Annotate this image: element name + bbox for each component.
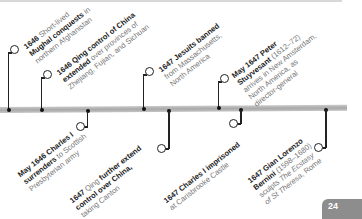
event-marker-6: [157, 144, 166, 153]
connector-7: [240, 110, 242, 124]
event-marker-3: [145, 67, 154, 76]
top-border: [0, 0, 342, 2]
event-marker-7: [229, 119, 238, 128]
connector-3: [143, 74, 145, 108]
connector-8: [325, 110, 327, 148]
timeline-dot-3: [142, 107, 146, 111]
connector-1: [8, 52, 10, 110]
page-number: 24: [328, 201, 338, 211]
event-label-bernini: 1647 Gian Lorenzo Bernini (1598–1680) sc…: [246, 134, 324, 206]
event-label-charles-imprisoned: 1647 Charles I imprisoned at Carisbrooke…: [162, 140, 247, 212]
event-marker-4: [220, 74, 229, 83]
connector-4: [218, 81, 220, 107]
timeline-dot-4: [217, 106, 221, 110]
event-label-charles-surrenders: May 1646 Charles I surrenders to Scottis…: [16, 124, 94, 193]
timeline-dot-1: [7, 108, 11, 112]
connector-6: [168, 111, 170, 149]
event-marker-2: [43, 70, 52, 79]
page-number-tab: 24: [322, 199, 362, 219]
timeline-bar: [0, 105, 347, 113]
connector-5: [87, 111, 89, 127]
connector-1h: [8, 52, 12, 54]
timeline-dot-2: [40, 108, 44, 112]
event-label-stuyvesant: May 1647 Peter Stuyvesant (1612–72) arri…: [230, 17, 329, 108]
connector-2: [41, 77, 43, 109]
